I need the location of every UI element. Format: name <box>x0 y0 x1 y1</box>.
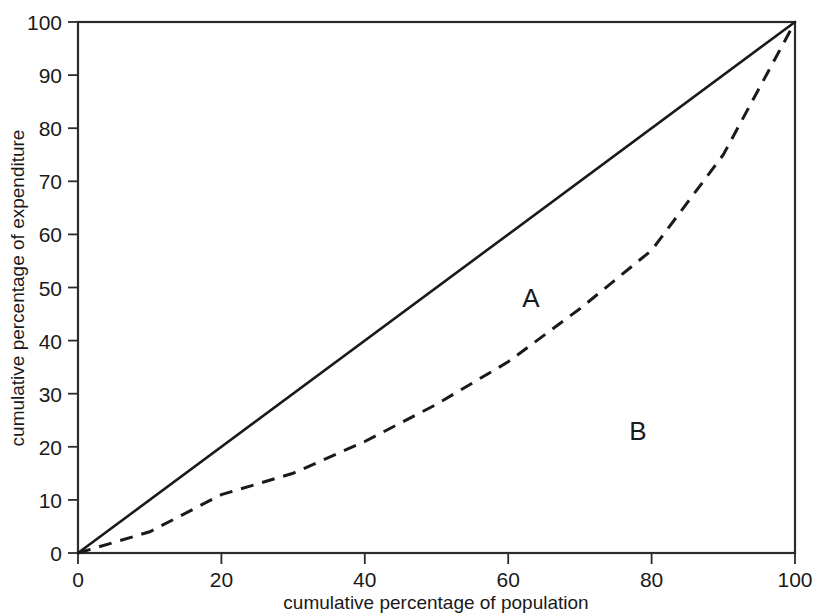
y-tick-label-80: 80 <box>39 117 62 140</box>
x-tick-label-40: 40 <box>353 568 376 591</box>
x-axis-title: cumulative percentage of population <box>283 592 588 613</box>
x-tick-label-100: 100 <box>777 568 812 591</box>
y-tick-label-40: 40 <box>39 330 62 353</box>
x-tick-label-20: 20 <box>210 568 233 591</box>
y-tick-label-50: 50 <box>39 277 62 300</box>
y-tick-label-30: 30 <box>39 383 62 406</box>
chart-canvas: 0 10 20 30 40 50 60 70 80 90 100 0 20 40… <box>0 0 818 616</box>
y-axis-title: cumulative percentage of expenditure <box>7 130 28 447</box>
y-tick-label-10: 10 <box>39 489 62 512</box>
x-tick-label-80: 80 <box>640 568 663 591</box>
x-axis-ticks <box>78 553 795 564</box>
y-axis-ticks <box>68 22 78 553</box>
y-tick-label-20: 20 <box>39 436 62 459</box>
y-tick-label-60: 60 <box>39 223 62 246</box>
x-tick-label-0: 0 <box>72 568 84 591</box>
y-axis-tick-labels: 0 10 20 30 40 50 60 70 80 90 100 <box>27 11 62 565</box>
y-tick-label-0: 0 <box>50 542 62 565</box>
y-tick-label-100: 100 <box>27 11 62 34</box>
x-axis-tick-labels: 0 20 40 60 80 100 <box>72 568 812 591</box>
region-label-b: B <box>629 416 646 446</box>
region-label-a: A <box>522 283 540 313</box>
y-tick-label-70: 70 <box>39 170 62 193</box>
y-tick-label-90: 90 <box>39 64 62 87</box>
lorenz-curve-chart: 0 10 20 30 40 50 60 70 80 90 100 0 20 40… <box>0 0 818 616</box>
x-tick-label-60: 60 <box>497 568 520 591</box>
